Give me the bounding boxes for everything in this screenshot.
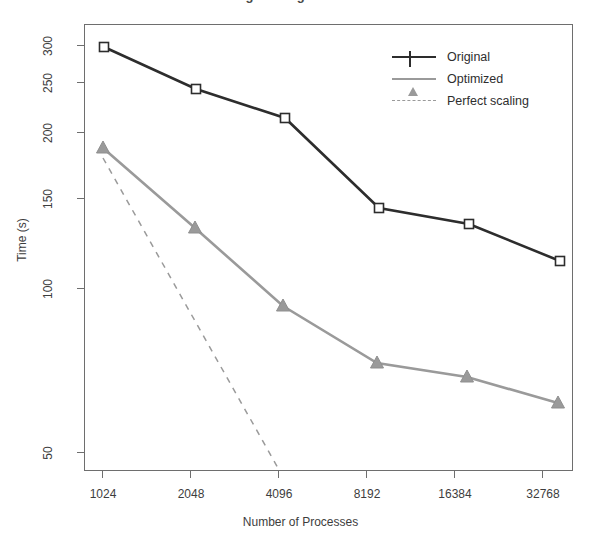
legend-key-perfect-scaling — [392, 92, 436, 110]
legend-label-optimized: Optimized — [447, 72, 503, 86]
y-tick-label-200: 200 — [41, 113, 55, 153]
legend-label-original: Original — [447, 50, 490, 64]
square-marker-icon — [409, 51, 411, 67]
y-tick-label-150: 150 — [41, 179, 55, 219]
y-axis-ticks — [77, 40, 85, 458]
x-tick-label-16384: 16384 — [425, 487, 485, 501]
x-tick-label-32768: 32768 — [513, 487, 573, 501]
y-tick-label-300: 300 — [41, 26, 55, 66]
y-axis-label: Time (s) — [15, 180, 29, 300]
scaling-performance-chart: Strong Scaling Performance — [0, 0, 601, 555]
x-tick-label-8192: 8192 — [337, 487, 397, 501]
x-axis-ticks — [96, 471, 549, 479]
legend-label-perfect-scaling: Perfect scaling — [447, 94, 529, 108]
x-tick-label-1024: 1024 — [73, 487, 133, 501]
series-optimized — [97, 141, 565, 408]
legend-item-original: Original — [392, 46, 529, 68]
x-tick-label-4096: 4096 — [249, 487, 309, 501]
x-tick-label-2048: 2048 — [161, 487, 221, 501]
y-tick-label-50: 50 — [41, 433, 55, 473]
x-axis-label: Number of Processes — [0, 515, 601, 529]
legend-key-original — [392, 48, 436, 66]
legend-key-optimized — [392, 70, 436, 88]
y-tick-label-100: 100 — [41, 269, 55, 309]
legend-item-optimized: Optimized — [392, 68, 529, 90]
legend-item-perfect-scaling: Perfect scaling — [392, 90, 529, 112]
series-perfect-scaling — [103, 158, 278, 468]
chart-legend: Original Optimized Perfect scaling — [392, 46, 529, 112]
y-tick-label-250: 250 — [41, 63, 55, 103]
